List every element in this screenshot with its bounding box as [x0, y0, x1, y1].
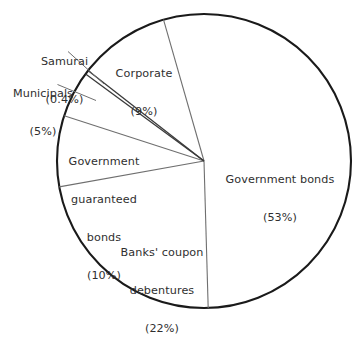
slice-label-banks-coupon-line1: Banks' coupon	[107, 247, 217, 260]
slice-label-government-bonds-value: (53%)	[215, 212, 345, 225]
slice-label-banks-coupon-debentures: Banks' coupon debentures (22%)	[107, 222, 217, 338]
slice-label-banks-coupon-value: (22%)	[107, 323, 217, 336]
slice-label-corporate-value: (9%)	[104, 106, 184, 119]
slice-label-government-guaranteed-line1: Government	[56, 156, 152, 169]
slice-label-government-bonds-name: Government bonds	[215, 174, 345, 187]
slice-label-government-bonds: Government bonds (53%)	[215, 149, 345, 250]
slice-label-municipals-name: Municipals	[0, 88, 86, 101]
slice-label-banks-coupon-line2: debentures	[107, 285, 217, 298]
slice-label-government-guaranteed-line2: guaranteed	[56, 194, 152, 207]
slice-label-corporate-name: Corporate	[104, 68, 184, 81]
slice-label-corporate: Corporate (9%)	[104, 43, 184, 144]
